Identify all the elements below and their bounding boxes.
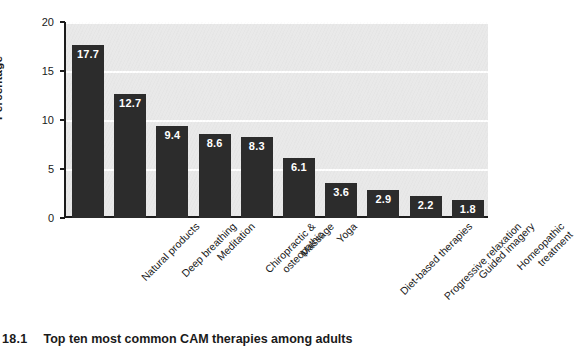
figure-caption: 18.1Top ten most common CAM therapies am… xyxy=(2,332,352,346)
bar: 3.6 xyxy=(325,183,357,218)
bar: 6.1 xyxy=(283,158,315,218)
bar: 12.7 xyxy=(114,94,146,218)
bar-value-label: 3.6 xyxy=(325,186,357,198)
figure-caption-text: Top ten most common CAM therapies among … xyxy=(44,332,353,346)
bar-value-label: 12.7 xyxy=(114,97,146,109)
bar-value-label: 9.4 xyxy=(156,129,188,141)
bar-value-label: 8.6 xyxy=(199,137,231,149)
x-tick-label-line: Yoga xyxy=(334,220,359,245)
bar-value-label: 1.8 xyxy=(452,203,484,215)
bar: 2.2 xyxy=(410,196,442,218)
bar: 17.7 xyxy=(72,45,104,218)
bar-value-label: 8.3 xyxy=(241,140,273,152)
figure-number: 18.1 xyxy=(2,332,28,346)
y-tick-label: 5 xyxy=(28,163,54,175)
y-tick-label: 0 xyxy=(28,212,54,224)
x-axis-labels: Natural productsDeep breathingMeditation… xyxy=(66,220,488,312)
bar: 2.9 xyxy=(367,190,399,218)
bar: 8.3 xyxy=(241,137,273,218)
x-tick-label: Yoga xyxy=(334,220,359,245)
bar-value-label: 2.9 xyxy=(367,193,399,205)
bar-series: 17.712.79.48.68.36.13.62.92.21.8 xyxy=(66,22,488,218)
bar: 1.8 xyxy=(452,200,484,218)
bar: 9.4 xyxy=(156,126,188,218)
bar-value-label: 17.7 xyxy=(72,48,104,60)
y-tick-label: 20 xyxy=(28,16,54,28)
x-tick-label: Chiropractic &osteopathic xyxy=(262,220,326,284)
bar-value-label: 6.1 xyxy=(283,161,315,173)
bar-value-label: 2.2 xyxy=(410,199,442,211)
y-tick-label: 15 xyxy=(28,65,54,77)
bar: 8.6 xyxy=(199,134,231,218)
y-tick-label: 10 xyxy=(28,114,54,126)
y-axis-title: Percentage xyxy=(0,56,4,120)
